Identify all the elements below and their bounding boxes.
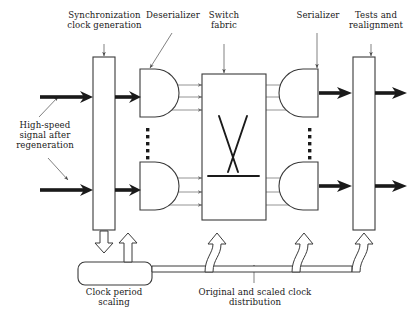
clock-bus-line [152,266,352,272]
label-tests-and-realignment: Tests and realignment [340,10,412,30]
leader-deserializer [150,33,172,68]
block-switch-fabric[interactable] [202,74,266,220]
label-input-signal: High-speed signal after regeneration [6,120,84,151]
arrow-output-bottom [375,180,407,192]
label-clock-distribution: Original and scaled clock distribution [192,287,318,307]
block-deserializer-bottom[interactable] [140,162,179,210]
arrow-input-bottom [40,184,93,196]
clock-arrow-up-deserializer [119,233,137,262]
label-switch-fabric: Switch fabric [196,10,252,30]
arrow-input-top [40,91,93,103]
leader-input-bottom [48,158,68,180]
arrow-ser-to-tests-bottom [319,180,352,192]
block-serializer-bottom[interactable] [279,162,318,210]
block-sync-clock-generation[interactable] [93,57,115,230]
figure-canvas: Synchronization clock generation Deseria… [0,0,416,322]
arrow-sync-to-deser-top [115,91,141,103]
clock-arrow-up-tests [352,233,373,272]
label-clock-period-scaling: Clock period scaling [68,287,160,307]
block-clock-period-scaling[interactable] [78,262,152,285]
clock-arrow-down-to-scaling [95,231,113,253]
ellipsis-serializer [308,128,311,159]
arrow-ser-to-tests-top [319,87,352,99]
ellipsis-deserializer [146,128,149,159]
arrow-output-top [375,87,407,99]
arrow-sync-to-deser-bottom [115,184,141,196]
block-tests-and-realignment[interactable] [353,57,375,230]
leader-input-top [39,97,58,117]
label-serializer: Serializer [288,10,348,20]
block-diagram-svg [0,0,416,322]
